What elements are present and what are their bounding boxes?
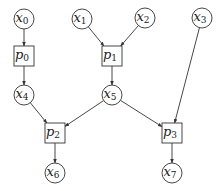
process-node-p0: p0 [14, 46, 34, 66]
process-node-p3: p3 [162, 123, 182, 143]
edge-x3-to-p3 [175, 28, 200, 123]
edge-x2-to-p1 [121, 26, 139, 46]
graph-diagram: x0x1x2x3x4x5x6x7p0p1p2p3 [0, 0, 221, 191]
variable-node-x0: x0 [14, 9, 34, 29]
variable-node-x1: x1 [72, 9, 92, 29]
edge-x1-to-p1 [88, 27, 104, 46]
edge-x5-to-p2 [65, 101, 104, 127]
variable-node-x2: x2 [135, 8, 155, 28]
process-node-p2: p2 [45, 123, 65, 143]
variable-node-x6: x6 [45, 163, 65, 183]
variable-node-x7: x7 [162, 163, 182, 183]
variable-node-x4: x4 [14, 85, 34, 105]
process-node-p1: p1 [102, 46, 122, 66]
variable-node-x5: x5 [102, 85, 122, 105]
variable-node-x3: x3 [192, 8, 212, 28]
edge-x5-to-p3 [120, 100, 162, 126]
edge-x4-to-p2 [30, 103, 47, 123]
nodes-layer: x0x1x2x3x4x5x6x7p0p1p2p3 [14, 8, 212, 183]
